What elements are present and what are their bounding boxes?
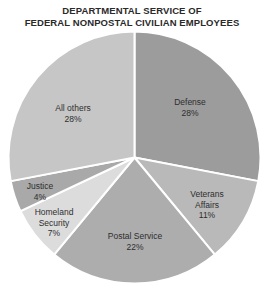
slice-label-postal-service: Postal Service 22% xyxy=(108,231,162,252)
slice-label-justice: Justice 4% xyxy=(27,181,53,202)
slice-name: Justice xyxy=(27,181,53,192)
slice-name: All others xyxy=(55,103,90,114)
slice-label-homeland-security: Homeland Security 7% xyxy=(35,207,74,239)
slice-label-veterans-affairs: Veterans Affairs 11% xyxy=(190,189,224,221)
slice-name: Defense xyxy=(174,97,206,108)
slice-value: 7% xyxy=(35,228,74,239)
slice-name: Veterans xyxy=(190,189,224,200)
slice-value: 28% xyxy=(55,113,90,124)
slice-value: 11% xyxy=(190,210,224,221)
slice-value: 4% xyxy=(27,191,53,202)
slice-label-all-others: All others 28% xyxy=(55,103,90,124)
slice-value: 22% xyxy=(108,241,162,252)
slice-name-line-2: Affairs xyxy=(190,200,224,211)
slice-name: Homeland xyxy=(35,207,74,218)
slice-name-line-2: Security xyxy=(35,218,74,229)
slice-name: Postal Service xyxy=(108,231,162,242)
slice-label-defense: Defense 28% xyxy=(174,97,206,118)
slice-value: 28% xyxy=(174,107,206,118)
